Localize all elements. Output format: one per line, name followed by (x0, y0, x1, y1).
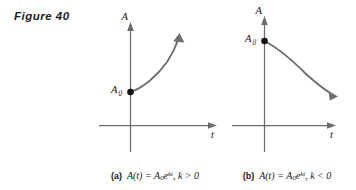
x-axis-label-b: t (330, 129, 334, 140)
curve-arrowhead-b (329, 91, 338, 100)
figure-number-label: Figure 40 (14, 10, 70, 22)
intercept-label-b: A (244, 33, 252, 44)
caption-b-formula-condition: , k < 0 (305, 170, 331, 181)
graph-b-svg: A t A 0 (218, 0, 356, 160)
y-axis-label-b: A (255, 5, 263, 16)
caption-b-formula: A(t) = A0ekt, k < 0 (259, 170, 331, 181)
panel-b-decay: A t A 0 (b)A(t) = A0ekt, k < 0 (218, 0, 356, 190)
x-axis-arrowhead-a (208, 122, 217, 129)
caption-a-tag: (a) (111, 171, 122, 181)
intercept-label-a: A (110, 84, 118, 95)
y-axis-arrowhead-b (261, 16, 268, 25)
intercept-label-subscript-b: 0 (253, 39, 257, 47)
caption-a-formula-condition: , k > 0 (173, 170, 199, 181)
x-axis-label-a: t (211, 129, 215, 140)
caption-a-formula-prefix: A(t) = A (127, 170, 160, 181)
curve-exponential-decay (265, 41, 331, 93)
caption-b: (b)A(t) = A0ekt, k < 0 (218, 170, 356, 181)
graph-a-svg: A t A 0 (85, 0, 225, 160)
y-axis-arrowhead-a (127, 22, 134, 31)
figure-container: Figure 40 A t A 0 (a)A(t) = A0ekt, k > 0 (0, 0, 356, 190)
caption-a: (a)A(t) = A0ekt, k > 0 (85, 170, 225, 181)
panel-a-growth: A t A 0 (a)A(t) = A0ekt, k > 0 (85, 0, 225, 190)
y-axis-label-a: A (121, 11, 129, 22)
x-axis-arrowhead-b (327, 122, 336, 129)
intercept-dot-a (127, 89, 134, 96)
curve-exponential-growth (131, 40, 179, 92)
caption-a-formula: A(t) = A0ekt, k > 0 (127, 170, 199, 181)
intercept-label-subscript-a: 0 (119, 90, 123, 98)
curve-arrowhead-a (173, 33, 184, 43)
intercept-dot-b (261, 38, 268, 45)
caption-b-tag: (b) (243, 171, 255, 181)
caption-b-formula-prefix: A(t) = A (259, 170, 292, 181)
